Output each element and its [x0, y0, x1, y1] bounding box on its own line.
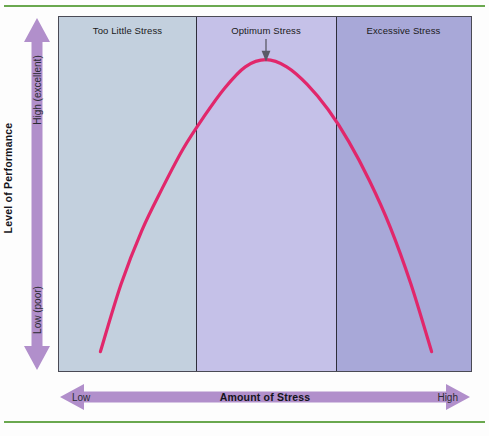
stress-performance-figure: High (excellent) Low (poor) Level of Per…	[0, 0, 489, 436]
y-axis-title: Level of Performance	[2, 123, 14, 234]
x-axis-title: Amount of Stress	[220, 391, 311, 403]
y-axis-bottom-label: Low (poor)	[32, 286, 43, 334]
plot-area: Too Little Stress Optimum Stress Excessi…	[58, 16, 472, 372]
bottom-rule	[4, 421, 485, 423]
top-rule	[4, 5, 485, 7]
y-axis: High (excellent) Low (poor)	[22, 16, 52, 372]
x-axis: Low High Amount of Stress	[58, 382, 472, 412]
x-axis-left-label: Low	[72, 392, 90, 403]
y-axis-top-label: High (excellent)	[32, 55, 43, 124]
optimum-annotation-arrow-icon	[59, 17, 472, 372]
x-axis-right-label: High	[437, 392, 458, 403]
